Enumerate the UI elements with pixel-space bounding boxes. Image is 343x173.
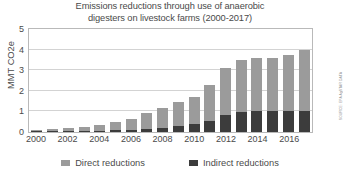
bar-segment-indirect [189, 124, 200, 132]
bar-column[interactable] [47, 29, 58, 132]
x-axis: 200020022004200620082010201220142016 [28, 134, 313, 148]
x-axis-tick-label: 2004 [82, 134, 116, 144]
legend-swatch-direct-icon [61, 160, 70, 166]
bar-segment-indirect [31, 131, 42, 132]
y-axis-tick-label: 2 [0, 87, 24, 96]
bar-segment-direct [220, 68, 231, 114]
bar-column[interactable] [141, 29, 152, 132]
bar-segment-direct [173, 102, 184, 126]
bar-segment-direct [236, 60, 247, 113]
bar-group [29, 29, 312, 132]
legend-item-direct[interactable]: Direct reductions [61, 158, 145, 168]
x-axis-tick-label: 2016 [272, 134, 306, 144]
legend-swatch-indirect-icon [189, 160, 198, 166]
bar-segment-direct [299, 50, 310, 112]
bar-segment-indirect [47, 131, 58, 132]
legend-item-indirect[interactable]: Indirect reductions [189, 158, 279, 168]
bar-segment-indirect [63, 131, 74, 132]
x-axis-tick-label: 2010 [177, 134, 211, 144]
bar-segment-direct [283, 55, 294, 112]
bar-segment-indirect [267, 111, 278, 132]
chart-title-line-1: Emissions reductions through use of anae… [0, 1, 340, 13]
bar-segment-indirect [283, 111, 294, 132]
legend-label-indirect: Indirect reductions [203, 158, 279, 168]
legend-label-direct: Direct reductions [75, 158, 145, 168]
bar-segment-direct [126, 119, 137, 130]
bar-column[interactable] [220, 29, 231, 132]
bar-segment-indirect [204, 121, 215, 132]
bar-segment-indirect [220, 115, 231, 133]
bar-segment-indirect [126, 130, 137, 132]
bar-segment-direct [157, 108, 168, 128]
x-axis-tick-label: 2002 [51, 134, 85, 144]
bar-segment-direct [267, 58, 278, 112]
y-axis-tick-label: 4 [0, 46, 24, 55]
bar-column[interactable] [31, 29, 42, 132]
x-axis-tick-label: 2012 [209, 134, 243, 144]
y-axis-tick-label: 5 [0, 25, 24, 34]
chart-legend: Direct reductions Indirect reductions [0, 156, 340, 170]
x-axis-tick-label: 2008 [146, 134, 180, 144]
bar-segment-direct [189, 97, 200, 124]
bar-segment-indirect [251, 111, 262, 132]
bar-column[interactable] [79, 29, 90, 132]
bar-column[interactable] [126, 29, 137, 132]
x-axis-tick-label: 2000 [19, 134, 53, 144]
bar-column[interactable] [267, 29, 278, 132]
chart-title: Emissions reductions through use of anae… [0, 1, 340, 24]
y-axis-tick-label: 3 [0, 66, 24, 75]
bar-column[interactable] [204, 29, 215, 132]
bar-segment-indirect [299, 111, 310, 132]
x-axis-tick-label: 2006 [114, 134, 148, 144]
bar-segment-indirect [141, 129, 152, 132]
bar-segment-indirect [173, 126, 184, 132]
bar-column[interactable] [283, 29, 294, 132]
bar-segment-direct [204, 85, 215, 121]
y-axis-tick-label: 1 [0, 107, 24, 116]
bar-segment-indirect [79, 131, 90, 132]
bar-column[interactable] [299, 29, 310, 132]
bar-column[interactable] [236, 29, 247, 132]
source-credit: SOURCE: EPA AgSTAR DATA [339, 72, 343, 120]
bar-segment-indirect [94, 131, 105, 132]
bar-column[interactable] [157, 29, 168, 132]
bar-column[interactable] [189, 29, 200, 132]
bar-column[interactable] [94, 29, 105, 132]
bar-segment-direct [110, 122, 121, 131]
y-axis-tick-label: 0 [0, 128, 24, 137]
x-axis-tick-label: 2014 [241, 134, 275, 144]
chart-title-line-2: digesters on livestock farms (2000-2017) [0, 13, 340, 25]
bar-column[interactable] [63, 29, 74, 132]
bar-segment-direct [141, 113, 152, 129]
bar-segment-indirect [110, 130, 121, 132]
bar-column[interactable] [251, 29, 262, 132]
bar-column[interactable] [173, 29, 184, 132]
bar-segment-indirect [157, 128, 168, 132]
bar-column[interactable] [110, 29, 121, 132]
bar-segment-direct [251, 58, 262, 112]
bar-segment-indirect [236, 112, 247, 132]
